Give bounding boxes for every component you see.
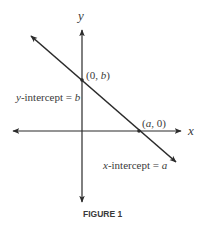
y-axis-label: y (76, 8, 84, 23)
y-intercept-coord-label: (0, b) (86, 69, 110, 82)
x-intercept-label: x-intercept = a (102, 159, 168, 171)
x-axis-label: x (187, 123, 194, 138)
y-intercept-point (80, 78, 84, 82)
intercepts-diagram: y x (0, b) y-intercept = b (a, 0) x-inte… (0, 0, 207, 234)
y-intercept-label: y-intercept = b (15, 91, 81, 103)
x-intercept-coord-label: (a, 0) (142, 117, 166, 130)
figure-caption: FIGURE 1 (83, 209, 122, 219)
x-intercept-point (137, 129, 141, 133)
